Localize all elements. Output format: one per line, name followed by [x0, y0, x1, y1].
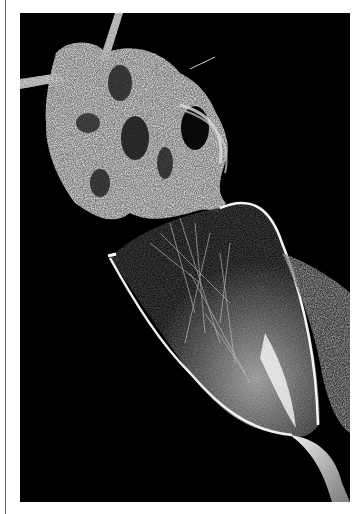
page-margin-rule — [5, 0, 6, 514]
specimen-illustration — [20, 13, 350, 502]
transparent-case — [108, 202, 320, 436]
tail — [290, 435, 350, 502]
head-thorax — [46, 42, 228, 219]
bristle — [190, 57, 215, 69]
micrograph-photo — [20, 13, 350, 502]
